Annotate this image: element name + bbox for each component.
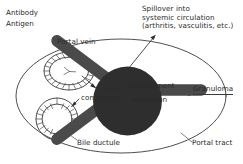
label-large-complexes-line2: complexes xyxy=(81,94,120,103)
label-portal-tract: Portal tract xyxy=(192,139,232,148)
label-spillover-line3: (arthritis, vasculitis, etc.) xyxy=(142,22,240,31)
label-granuloma-text: Granuloma xyxy=(193,85,233,95)
label-portal-vein: Portal vein xyxy=(57,38,96,47)
label-bile-ductule: Bile ductule xyxy=(77,139,120,148)
legend-item-antigen: Antigen xyxy=(6,19,34,28)
label-spillover: Spillover into systemic circulation (art… xyxy=(142,5,240,31)
legend-item-antibody: Antibody xyxy=(6,8,38,17)
diagram-canvas: Antibody Antigen Portal vein Large compl… xyxy=(0,0,243,164)
label-granuloma: Granuloma xyxy=(193,85,233,95)
label-complement-line2: activation xyxy=(131,96,167,105)
label-complement-line1: Complement xyxy=(128,82,175,91)
